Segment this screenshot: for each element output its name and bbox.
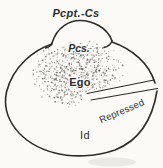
stipple-dot xyxy=(100,54,101,55)
cap-right-hook xyxy=(104,41,112,48)
stipple-dot xyxy=(36,79,37,80)
stipple-dot xyxy=(93,57,94,58)
stipple-dot xyxy=(98,58,100,60)
stipple-dot xyxy=(54,51,55,52)
stipple-dot xyxy=(43,90,44,91)
stipple-dot xyxy=(70,94,71,95)
stipple-dot xyxy=(107,56,108,57)
scan-smudge xyxy=(88,158,136,167)
stipple-dot xyxy=(63,75,65,77)
stipple-dot xyxy=(58,63,59,64)
stipple-dot xyxy=(122,75,123,76)
stipple-dot xyxy=(64,96,65,97)
stipple-dot xyxy=(73,65,74,66)
stipple-dot xyxy=(96,89,97,90)
stipple-dot xyxy=(108,59,109,60)
stipple-dot xyxy=(53,83,54,84)
stipple-dot xyxy=(102,86,103,87)
stipple-dot xyxy=(93,60,94,61)
stipple-dot xyxy=(97,74,98,75)
stipple-dot xyxy=(118,67,120,69)
stipple-dot xyxy=(102,58,104,60)
stipple-dot xyxy=(45,56,47,58)
stipple-dot xyxy=(64,87,66,89)
stipple-dot xyxy=(80,98,81,99)
stipple-dot xyxy=(101,75,102,76)
stipple-dot xyxy=(59,68,60,69)
stipple-dot xyxy=(95,54,97,56)
stipple-dot xyxy=(67,88,69,90)
stipple-dot xyxy=(63,77,64,78)
stipple-dot xyxy=(55,74,57,76)
stipple-dot xyxy=(87,55,88,56)
stipple-dot xyxy=(71,98,73,100)
stipple-dot xyxy=(61,87,62,88)
stipple-dot xyxy=(71,71,72,72)
stipple-dot xyxy=(68,102,69,103)
stipple-dot xyxy=(57,57,58,58)
stipple-dot xyxy=(59,86,60,87)
stipple-dot xyxy=(63,63,64,64)
stipple-dot xyxy=(51,61,52,62)
stipple-dot xyxy=(36,71,38,73)
stipple-dot xyxy=(77,92,78,93)
stipple-dot xyxy=(79,60,80,61)
stipple-dot xyxy=(51,88,52,89)
stipple-dot xyxy=(72,71,74,73)
stipple-dot xyxy=(66,70,67,71)
stipple-dot xyxy=(60,96,61,97)
stipple-dot xyxy=(47,54,48,55)
stipple-dot xyxy=(40,89,41,90)
stipple-dot xyxy=(94,65,95,66)
stipple-dot xyxy=(44,54,45,55)
stipple-dot xyxy=(38,61,39,62)
stipple-dot xyxy=(45,59,46,60)
stipple-dot xyxy=(66,89,68,91)
stipple-dot xyxy=(48,76,49,77)
stipple-dot xyxy=(75,105,76,106)
stipple-dot xyxy=(94,87,95,88)
stipple-dot xyxy=(39,71,41,73)
stipple-dot xyxy=(71,73,72,74)
stipple-dot xyxy=(114,65,115,66)
stipple-dot xyxy=(104,68,105,69)
stipple-dot xyxy=(76,62,77,63)
stipple-dot xyxy=(75,58,76,59)
stipple-dot xyxy=(44,81,46,83)
stipple-dot xyxy=(99,55,100,56)
stipple-dot xyxy=(58,53,59,54)
stipple-dot xyxy=(50,76,51,77)
stipple-dot xyxy=(64,91,65,92)
stipple-dot xyxy=(92,50,94,52)
stipple-dot xyxy=(118,62,119,63)
stipple-dot xyxy=(66,71,67,72)
label-ego: Ego xyxy=(69,76,91,88)
stipple-dot xyxy=(45,65,47,67)
stipple-dot xyxy=(51,66,53,68)
stipple-dot xyxy=(86,90,87,91)
stipple-dot xyxy=(89,70,90,71)
stipple-dot xyxy=(51,78,53,80)
stipple-dot xyxy=(70,95,72,97)
stipple-dot xyxy=(73,61,74,62)
stipple-dot xyxy=(71,69,72,70)
stipple-dot xyxy=(98,64,99,65)
stipple-dot xyxy=(95,67,97,69)
stipple-dot xyxy=(38,64,40,66)
stipple-dot xyxy=(57,52,58,53)
stipple-dot xyxy=(114,79,115,80)
stipple-dot xyxy=(101,73,102,74)
stipple-dot xyxy=(62,76,63,77)
stipple-dot xyxy=(85,66,86,67)
stipple-dot xyxy=(59,59,60,60)
stipple-dot xyxy=(81,56,82,57)
stipple-dot xyxy=(94,59,96,61)
stipple-dot xyxy=(54,62,55,63)
stipple-dot xyxy=(82,58,84,60)
stipple-dot xyxy=(79,56,80,57)
stipple-dot xyxy=(57,49,58,50)
stipple-dot xyxy=(63,54,65,56)
stipple-dot xyxy=(71,93,72,94)
stipple-dot xyxy=(64,81,65,82)
stipple-dot xyxy=(89,89,90,90)
